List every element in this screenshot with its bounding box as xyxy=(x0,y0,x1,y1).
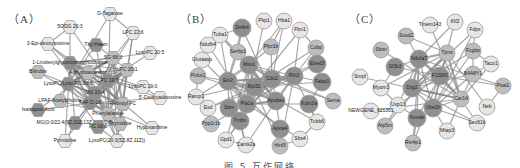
node-label: D-Tagatose xyxy=(97,10,123,16)
node-label: Neb xyxy=(482,103,491,109)
network-node: Thy-Haem xyxy=(84,39,107,52)
node-label: Hypoxanthine xyxy=(137,124,168,130)
node-label: Cdx2 xyxy=(266,75,278,81)
network-node: Camk2a xyxy=(237,137,256,153)
network-node: Atp5m xyxy=(377,118,393,134)
network-node: Retinoyl PC xyxy=(110,98,137,111)
network-node: Sema xyxy=(325,93,341,109)
network-node: Mtap3 xyxy=(439,123,455,139)
node-label: Susd2 xyxy=(399,32,413,38)
network-node: Esd xyxy=(200,100,216,116)
node-label: B4A8Y1 xyxy=(464,70,483,76)
node-label: Sec61b xyxy=(469,119,486,125)
network-node: NEWGENE_621361 xyxy=(348,103,394,119)
network-node: LysoPC 20:5 xyxy=(136,47,165,60)
node-label: Fdps xyxy=(469,26,481,32)
node-label: 5ODG 20:3 xyxy=(57,23,83,29)
network-node: Hinf3 xyxy=(272,138,288,154)
network-node: Snrpf xyxy=(352,69,368,85)
network-node: F1SM0 xyxy=(431,67,449,85)
node-label: Thymidine xyxy=(108,120,131,126)
node-label: Hba1 xyxy=(278,17,290,23)
network-node: Susd2 xyxy=(398,28,414,44)
node-label: Psat1 xyxy=(497,82,510,88)
node-label: Taco1 xyxy=(484,60,498,66)
network-node: Fabp3 xyxy=(313,73,331,91)
node-label: Esd xyxy=(204,104,213,110)
network-node: Cdx2 xyxy=(263,70,281,88)
node-label: Drg2 xyxy=(407,84,418,90)
network-node: Ube2h xyxy=(424,99,442,117)
network-node: Taco1 xyxy=(483,56,499,72)
node-label: Car14 xyxy=(454,95,468,101)
network-node: Apobec xyxy=(267,92,285,110)
node-label: Kdm2a xyxy=(301,100,317,106)
node-label: 3-Epi-deoxyinosine xyxy=(27,40,70,46)
node-label: Thy-Haem xyxy=(84,41,107,47)
network-node: Tmbn xyxy=(231,112,249,130)
network-node: Klf2 xyxy=(447,14,463,30)
network-node: Ndufa7 xyxy=(410,50,428,68)
panel-label-b: （B） xyxy=(180,10,212,26)
network-node: Tmem143 xyxy=(419,17,442,33)
node-label: Tmbn xyxy=(234,117,247,123)
node-label: Ndufa7 xyxy=(411,55,427,61)
network-node: Ebed3 xyxy=(308,55,326,73)
network-node: Tpmt xyxy=(439,45,455,61)
node-label: Ndufb4 xyxy=(200,41,216,47)
node-label: LysoPC 20:5 xyxy=(136,49,165,55)
network-node: Isatropoic Acid xyxy=(22,104,55,117)
node-label: Ppp1r1b xyxy=(202,120,221,126)
node-label: Pla1a xyxy=(241,100,254,106)
node-label: Pyrroidine xyxy=(54,137,77,143)
node-label: 1-Linoleoylglycerophosphocholine xyxy=(32,59,108,65)
network-node: Sec61b xyxy=(469,115,486,131)
node-label: Fcgbp xyxy=(466,47,480,53)
node-label: Etv2 xyxy=(223,77,233,83)
network-node: Tubb6 xyxy=(309,114,325,130)
node-label: Ube2h xyxy=(426,104,441,110)
node-label: Stim xyxy=(224,104,234,110)
network-node: Drg2 xyxy=(403,79,421,97)
node-label: Camk2a xyxy=(237,141,256,147)
node-label: Ramp1 xyxy=(188,93,204,99)
network-node: LPC 22:6 xyxy=(123,27,144,40)
network-node: Fcgbp xyxy=(465,43,481,59)
node-label: Rpl32 xyxy=(247,83,260,89)
node-label: Anhydroaxanthin xyxy=(69,69,107,75)
network-node: Etv2 xyxy=(219,72,237,90)
node-label: Atp5m xyxy=(378,122,392,128)
node-label: Rln3 xyxy=(289,72,300,78)
node-label: LPC 22:6 xyxy=(123,29,144,35)
node-label: Rin4p1 xyxy=(405,139,421,145)
node-label: Pfpr1b xyxy=(264,43,279,49)
node-label: PAF C-16 xyxy=(79,99,101,105)
node-label: Serbp1 xyxy=(230,48,246,54)
network-node: Myom3 xyxy=(373,80,390,96)
network-node: Car14 xyxy=(453,91,469,107)
network-node: Cobp xyxy=(308,40,324,56)
node-label: Snrpf xyxy=(354,73,367,79)
network-node: Pkp1 xyxy=(256,13,272,29)
node-label: Isatropoic Acid xyxy=(22,106,55,112)
network-node: Defb4 xyxy=(233,19,251,37)
node-label: LysoPC(20:3(5Z,8Z,11Z)) xyxy=(89,137,146,143)
node-label: PC 16:0 xyxy=(89,123,107,129)
network-node: Kdm2a xyxy=(300,95,318,113)
network-node: Fbn1 xyxy=(292,22,308,38)
network-node: Psat1 xyxy=(495,78,511,94)
network-node: Rpl32 xyxy=(245,78,263,96)
network-node: Nxnde xyxy=(408,109,426,127)
node-label: Gpd1 xyxy=(220,136,232,142)
node-label: Defb4 xyxy=(235,24,249,30)
node-label: Klf2 xyxy=(451,18,460,24)
network-node: 3-Epi-deoxyinosine xyxy=(27,38,70,51)
node-label: Myom3 xyxy=(373,84,390,90)
panel-label-c: （C） xyxy=(349,10,381,26)
network-node: Fdps xyxy=(467,22,483,38)
network-node: Pyrroidine xyxy=(54,135,77,148)
node-label: LysoPC/Lyso PC 20:0 xyxy=(44,80,93,86)
node-label: Msx1 xyxy=(243,61,255,67)
node-label: Hinf3 xyxy=(274,142,286,148)
network-node: Sf3b3 xyxy=(386,58,404,76)
